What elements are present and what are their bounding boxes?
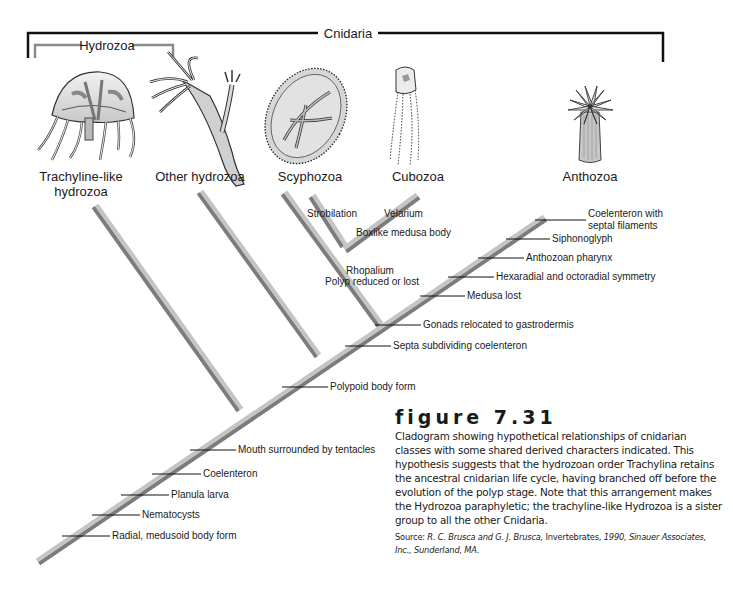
char-rhopalium: Rhopalium (346, 265, 394, 276)
trachyline-branch (92, 204, 244, 413)
cnidaria-label: Cnidaria (324, 26, 373, 41)
char-nematocysts: Nematocysts (142, 509, 200, 520)
char-septa: Septa subdividing coelenteron (393, 340, 527, 351)
box-jellyfish-icon (390, 67, 419, 165)
char-hexaradial: Hexaradial and octoradial symmetry (496, 271, 656, 282)
taxon-label-trachyline-line2: hydrozoa (54, 184, 108, 199)
hydrozoa-bracket: Hydrozoa (35, 38, 173, 58)
taxon-label-trachyline: Trachyline-like (39, 169, 122, 184)
char-boxlike-medusa: Boxlike medusa body (356, 227, 451, 238)
hydrozoa-label: Hydrozoa (79, 38, 135, 53)
figure-caption-text: Cladogram showing hypothetical relations… (395, 429, 723, 527)
hydroid-polyp-icon (150, 52, 244, 186)
char-mouth-tentacles: Mouth surrounded by tentacles (238, 444, 375, 455)
char-gonads: Gonads relocated to gastrodermis (423, 319, 574, 330)
taxon-label-cubozoa: Cubozoa (392, 169, 445, 184)
trachyline-medusa-icon (38, 72, 134, 160)
char-radial-medusoid: Radial, medusoid body form (112, 530, 237, 541)
char-siphonoglyph: Siphonoglyph (552, 233, 613, 244)
taxon-label-anthozoa: Anthozoa (563, 169, 619, 184)
figure-title: figure 7.31 (395, 406, 723, 428)
taxon-label-other-hydrozoa: Other hydrozoa (155, 169, 245, 184)
char-polyp-reduced: Polyp reduced or lost (325, 276, 419, 287)
char-coelenteron-septal: Coelenteron with (588, 208, 663, 219)
scyphozoan-jellyfish-icon (249, 54, 363, 178)
char-strobilation: Strobilation (307, 208, 357, 219)
char-anthozoan-pharynx: Anthozoan pharynx (526, 252, 612, 263)
figure-caption: figure 7.31 Cladogram showing hypothetic… (395, 406, 723, 557)
taxon-label-scyphozoa: Scyphozoa (278, 169, 343, 184)
char-planula-larva: Planula larva (171, 489, 229, 500)
figure-source: Source: R. C. Brusca and G. J. Brusca, I… (395, 531, 723, 557)
source-authors: R. C. Brusca and G. J. Brusca, (427, 532, 543, 542)
char-coelenteron: Coelenteron (203, 468, 257, 479)
char-polypoid-body: Polypoid body form (330, 381, 416, 392)
cubozoa-branch (343, 193, 421, 253)
source-prefix: Source: (395, 532, 427, 542)
char-coelenteron-septal-line2: septal filaments (588, 220, 657, 231)
sea-anemone-icon (568, 86, 613, 163)
char-medusa-lost: Medusa lost (467, 290, 521, 301)
char-velarium: Velarium (384, 208, 423, 219)
source-book: Invertebrates, (543, 532, 604, 542)
